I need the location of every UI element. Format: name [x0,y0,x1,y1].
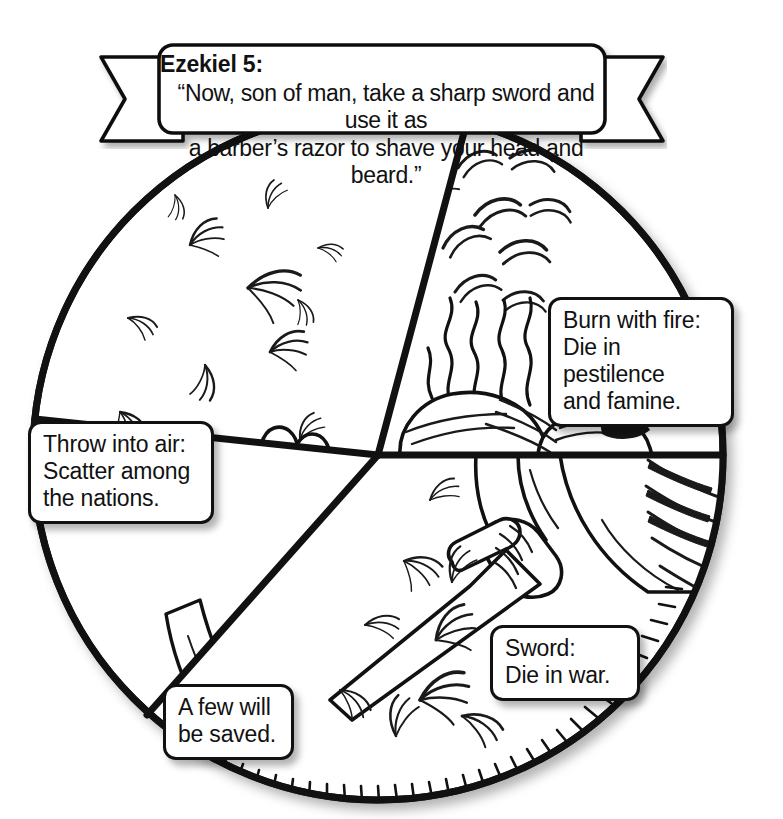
callout-throw-into-air: Throw into air: Scatter among the nation… [28,421,214,524]
callout-a-few-will-be-saved: A few will be saved. [163,684,294,760]
banner-title: Ezekiel 5: [160,51,612,79]
banner-text-block: Ezekiel 5: “Now, son of man, take a shar… [160,51,612,190]
illustration-canvas: Ezekiel 5: “Now, son of man, take a shar… [0,0,783,819]
scripture-banner: Ezekiel 5: “Now, son of man, take a shar… [97,43,667,149]
callout-burn-with-fire: Burn with fire: Die in pestilence and fa… [548,297,734,427]
callout-sword: Sword: Die in war. [490,625,640,701]
banner-quote: “Now, son of man, take a sharp sword and… [160,80,612,190]
